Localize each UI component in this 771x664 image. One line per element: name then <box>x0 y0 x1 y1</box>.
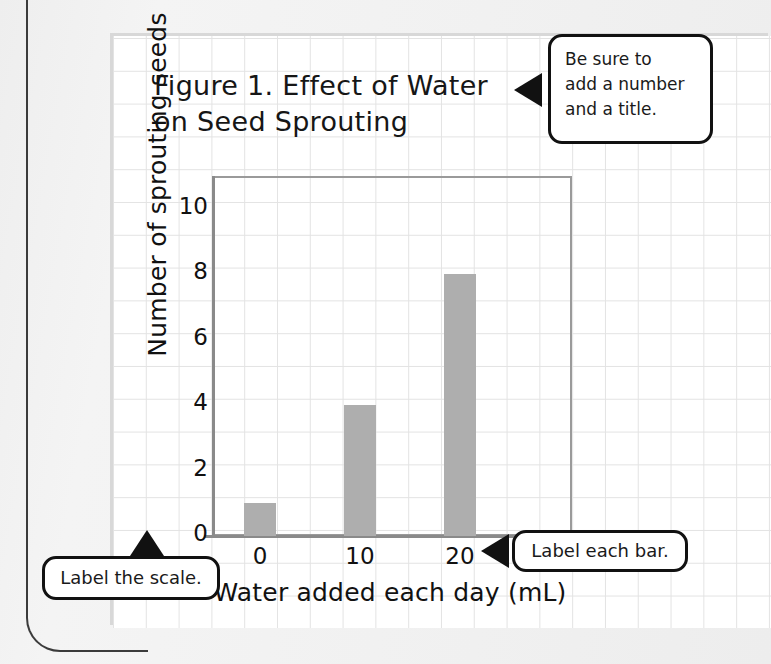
callout-pointer-bar-icon <box>481 534 509 568</box>
callout-pointer-title-icon <box>514 73 542 107</box>
x-tick-0: 0 <box>230 543 290 569</box>
callout-title-hint: Be sure to add a number and a title. <box>548 34 713 144</box>
callout-bar-hint-text: Label each bar. <box>515 540 685 561</box>
x-tick-10: 10 <box>330 543 390 569</box>
y-tick-4: 4 <box>174 389 208 415</box>
x-axis-label: Water added each day (mL) <box>150 578 630 607</box>
callout-pointer-scale-icon <box>130 530 164 556</box>
bar-20 <box>444 274 476 536</box>
callout-scale-hint-text: Label the scale. <box>45 567 217 588</box>
callout-title-hint-text: Be sure to add a number and a title. <box>565 47 698 122</box>
y-tick-6: 6 <box>174 324 208 350</box>
bar-0 <box>244 503 276 536</box>
y-tick-10: 10 <box>174 193 208 219</box>
page-margin-rule <box>26 0 28 612</box>
figure-title: Figure 1. Effect of Water on Seed Sprout… <box>154 68 514 140</box>
y-tick-8: 8 <box>174 258 208 284</box>
y-axis-label: Number of sprouting seeds <box>143 0 172 370</box>
bar-10 <box>344 405 376 536</box>
y-tick-2: 2 <box>174 455 208 481</box>
bar-series <box>213 176 572 536</box>
callout-bar-hint: Label each bar. <box>512 530 688 572</box>
y-tick-0: 0 <box>174 520 208 546</box>
callout-scale-hint: Label the scale. <box>42 556 220 600</box>
worksheet-screenshot: Figure 1. Effect of Water on Seed Sprout… <box>0 0 771 664</box>
